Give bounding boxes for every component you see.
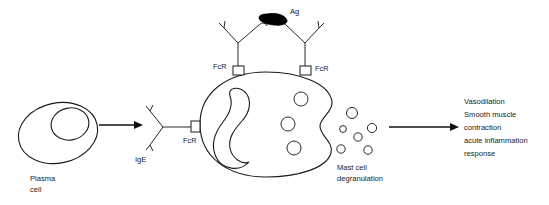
outcome-line-1: Vasodilation [464,97,505,106]
ige-lower-fork-a [146,145,150,150]
degranulation-label-line1: Mast cell [337,163,367,172]
fcr-label-top-right: FcR [315,64,329,73]
released-granule-6 [364,146,372,154]
ige-antibody-bound-left [219,21,267,66]
mast-cell-granule-1 [294,92,308,106]
ige-right-arm-outer [305,28,319,43]
secretion-arrow-head [134,121,143,129]
outcome-text-block: Vasodilation Smooth muscle contraction a… [464,97,528,158]
fcr-box-membrane [191,121,200,132]
fcr-label-membrane: FcR [183,136,197,145]
outcome-arrow-head [450,123,459,131]
immunology-diagram: Plasma cell IgE [0,0,549,205]
ige-right-fork-outer-b [318,21,319,28]
ige-lower-fork-b [150,145,153,151]
mast-cell-granule-2 [281,117,295,131]
ige-antibody-bound-right [278,21,324,66]
mast-cell [200,72,332,177]
secretion-arrow [99,121,143,129]
mast-cell-granule-3 [287,141,301,155]
outcome-line-5: response [464,149,495,158]
released-granule-5 [337,145,345,153]
diagram-canvas: Plasma cell IgE [0,0,549,205]
outcome-line-3: contraction [464,123,501,132]
ige-lower-arm [150,127,163,145]
ige-upper-fork-a [146,106,150,111]
outcome-arrow [389,123,459,131]
ige-upper-arm [150,111,163,127]
outcome-line-2: Smooth muscle [464,110,516,119]
ige-left-fork-outer-b [224,21,225,28]
released-granule-3 [367,123,376,132]
ige-right-arm-inner [286,25,305,43]
outcome-line-4: acute inflammation [464,136,528,145]
fcr-box-top-right [300,66,311,75]
plasma-cell-label-line2: cell [30,185,42,194]
released-granules [337,108,377,155]
degranulation-label-line2: degranulation [337,174,383,183]
plasma-cell-label-line1: Plasma [30,174,56,183]
fcr-box-top-left [233,66,244,75]
released-granule-2 [340,126,347,133]
fcr-label-top-left: FcR [213,62,227,71]
ige-upper-fork-b [150,105,153,111]
plasma-cell [13,95,104,170]
ige-label: IgE [135,155,146,164]
antigen-label: Ag [290,7,299,16]
ige-left-arm-outer [224,28,238,43]
ige-right-fork-outer-a [319,23,324,28]
fcr-receptor-left-membrane [191,121,200,132]
released-granule-1 [347,108,358,119]
ige-left-fork-outer-a [219,23,224,28]
ige-left-arm-inner [238,25,259,43]
released-granule-4 [354,133,362,141]
